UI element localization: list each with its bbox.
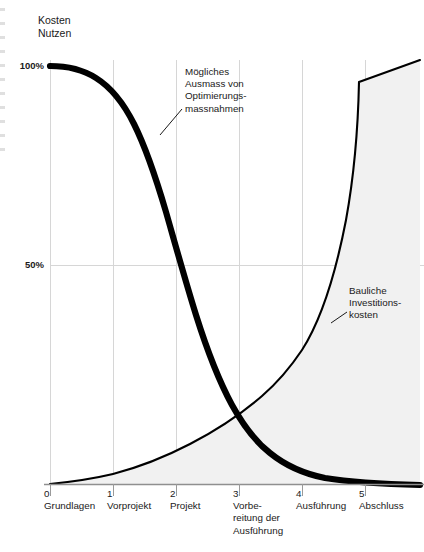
- x-axis-label-2-name: Projekt: [170, 500, 232, 512]
- x-axis-label-3: 3 Vorbe- reitung der Ausführung: [233, 488, 295, 537]
- x-axis-label-2: 2 Projekt: [170, 488, 232, 512]
- annotation-building-investment-costs: Bauliche Investitions- kosten: [349, 285, 423, 322]
- optimization-leader-line: [160, 109, 182, 135]
- x-axis-label-1: 1 Vorprojekt: [107, 488, 169, 512]
- x-axis-label-1-number: 1: [107, 488, 169, 500]
- x-axis-label-3-number: 3: [233, 488, 295, 500]
- investment-cost-area: [50, 60, 420, 484]
- x-axis-label-3-name: Vorbe- reitung der Ausführung: [233, 500, 295, 537]
- x-axis-label-2-number: 2: [170, 488, 232, 500]
- x-axis-label-0: 0 Grundlagen: [44, 488, 106, 512]
- x-axis-label-4-name: Ausführung: [296, 500, 358, 512]
- x-axis-label-1-name: Vorprojekt: [107, 500, 169, 512]
- x-axis-label-5-name: Abschluss: [359, 500, 421, 512]
- x-axis-label-5-number: 5: [359, 488, 421, 500]
- x-axis-label-0-number: 0: [44, 488, 106, 500]
- x-axis-label-4: 4 Ausführung: [296, 488, 358, 512]
- x-axis-label-0-name: Grundlagen: [44, 500, 106, 512]
- x-axis-label-5: 5 Abschluss: [359, 488, 421, 512]
- annotation-optimization-measures: Mögliches Ausmass von Optimierungs- mass…: [185, 66, 295, 115]
- cost-benefit-chart: Kosten Nutzen 100% 50%: [0, 0, 424, 552]
- x-axis-label-4-number: 4: [296, 488, 358, 500]
